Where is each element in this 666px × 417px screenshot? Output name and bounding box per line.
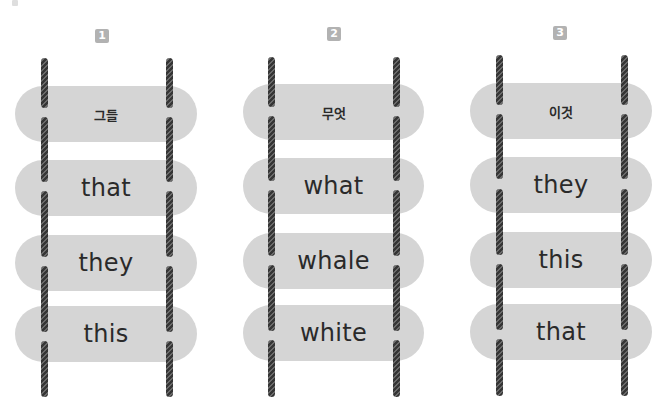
ladder-rail-segment xyxy=(621,189,628,255)
ladder-rail-segment xyxy=(621,114,628,179)
ladder-rail-segment xyxy=(496,339,503,396)
ladder-rail-segment xyxy=(621,55,628,105)
number-badge: 3 xyxy=(553,26,567,40)
ladder-rail-segment xyxy=(496,114,503,179)
ladder-rail-segment xyxy=(621,264,628,330)
ladder-3: 3 이것 they this that xyxy=(0,0,666,417)
option-text: this xyxy=(539,246,584,274)
ladder-rail-segment xyxy=(621,339,628,396)
ladder-rail-segment xyxy=(496,189,503,255)
ladder-rail-segment xyxy=(496,55,503,105)
prompt-text: 이것 xyxy=(549,102,573,121)
option-text: they xyxy=(534,171,589,199)
ladder-rail-segment xyxy=(496,264,503,330)
option-text: that xyxy=(536,318,586,346)
